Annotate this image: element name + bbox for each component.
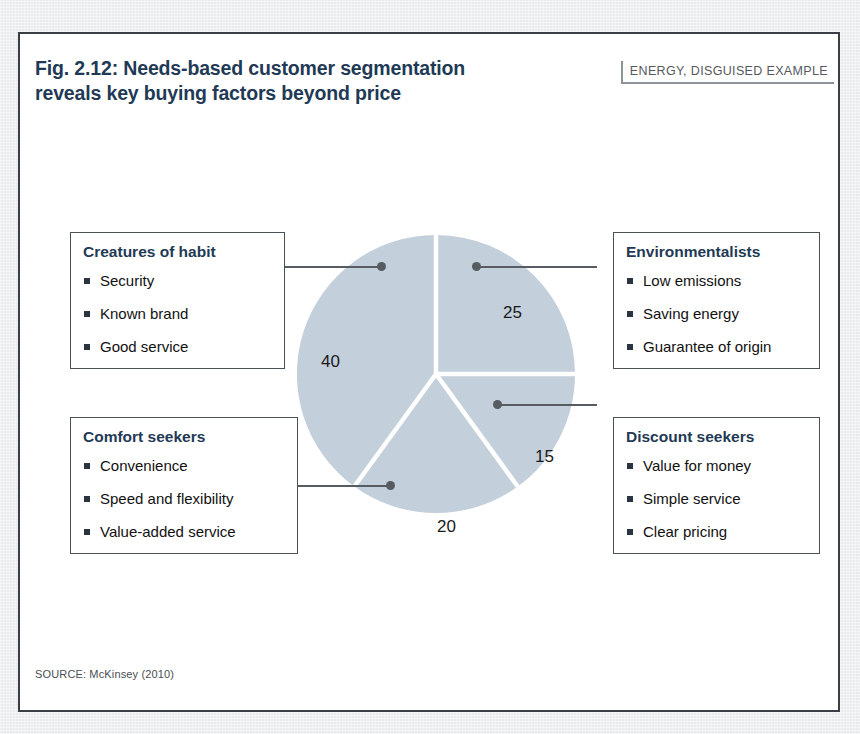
- list-item: Good service: [83, 338, 272, 356]
- segment-list-discount-seekers: Value for money Simple service Clear pri…: [626, 457, 807, 541]
- list-item: Known brand: [83, 305, 272, 323]
- segment-title-comfort-seekers: Comfort seekers: [83, 428, 285, 446]
- pie-label-creatures-of-habit: 40: [321, 352, 340, 372]
- segment-box-comfort-seekers[interactable]: Comfort seekers Convenience Speed and fl…: [70, 417, 298, 554]
- list-item: Simple service: [626, 490, 807, 508]
- list-item: Value for money: [626, 457, 807, 475]
- segment-box-environmentalists[interactable]: Environmentalists Low emissions Saving e…: [613, 232, 820, 369]
- segment-title-creatures-of-habit: Creatures of habit: [83, 243, 272, 261]
- list-item: Security: [83, 272, 272, 290]
- segment-title-discount-seekers: Discount seekers: [626, 428, 807, 446]
- list-item-label: Known brand: [100, 305, 188, 322]
- bullet-square-icon: [84, 311, 90, 317]
- bullet-square-icon: [627, 344, 633, 350]
- list-item: Guarantee of origin: [626, 338, 807, 356]
- segment-list-environmentalists: Low emissions Saving energy Guarantee of…: [626, 272, 807, 356]
- segment-list-creatures-of-habit: Security Known brand Good service: [83, 272, 272, 356]
- list-item-label: Value for money: [643, 457, 751, 474]
- segment-list-comfort-seekers: Convenience Speed and flexibility Value-…: [83, 457, 285, 541]
- bullet-square-icon: [627, 529, 633, 535]
- pie-chart-svg: [297, 235, 577, 515]
- list-item-label: Convenience: [100, 457, 188, 474]
- list-item: Clear pricing: [626, 523, 807, 541]
- connector-dot-environmentalists: [472, 262, 481, 271]
- connector-line-discount-seekers: [498, 404, 597, 406]
- connector-dot-comfort-seekers: [386, 481, 395, 490]
- title-line-1: Fig. 2.12: Needs-based customer segmenta…: [35, 56, 595, 81]
- bullet-square-icon: [84, 496, 90, 502]
- figure-card: Fig. 2.12: Needs-based customer segmenta…: [18, 32, 840, 712]
- title-line-2: reveals key buying factors beyond price: [35, 81, 595, 106]
- list-item-label: Good service: [100, 338, 188, 355]
- pie-label-environmentalists: 25: [503, 303, 522, 323]
- list-item-label: Saving energy: [643, 305, 739, 322]
- segment-title-environmentalists: Environmentalists: [626, 243, 807, 261]
- list-item-label: Clear pricing: [643, 523, 727, 540]
- list-item-label: Simple service: [643, 490, 741, 507]
- source-tag-badge: ENERGY, DISGUISED EXAMPLE: [621, 61, 834, 84]
- list-item-label: Security: [100, 272, 154, 289]
- list-item-label: Guarantee of origin: [643, 338, 771, 355]
- list-item: Value-added service: [83, 523, 285, 541]
- pie-chart: 25 15 20 40: [297, 235, 577, 515]
- bullet-square-icon: [627, 311, 633, 317]
- bullet-square-icon: [84, 278, 90, 284]
- list-item-label: Speed and flexibility: [100, 490, 233, 507]
- figure-canvas: Fig. 2.12: Needs-based customer segmenta…: [0, 0, 860, 734]
- bullet-square-icon: [627, 496, 633, 502]
- list-item: Saving energy: [626, 305, 807, 323]
- list-item: Low emissions: [626, 272, 807, 290]
- connector-dot-discount-seekers: [493, 400, 502, 409]
- list-item: Convenience: [83, 457, 285, 475]
- list-item-label: Value-added service: [100, 523, 236, 540]
- bullet-square-icon: [627, 278, 633, 284]
- page-title: Fig. 2.12: Needs-based customer segmenta…: [35, 56, 595, 106]
- bullet-square-icon: [84, 463, 90, 469]
- bullet-square-icon: [84, 529, 90, 535]
- list-item: Speed and flexibility: [83, 490, 285, 508]
- connector-line-environmentalists: [477, 266, 597, 268]
- segment-box-creatures-of-habit[interactable]: Creatures of habit Security Known brand …: [70, 232, 285, 369]
- pie-label-discount-seekers: 15: [535, 447, 554, 467]
- source-note: SOURCE: McKinsey (2010): [35, 668, 174, 680]
- bullet-square-icon: [84, 344, 90, 350]
- pie-label-comfort-seekers: 20: [437, 517, 456, 537]
- connector-dot-creatures-of-habit: [377, 262, 386, 271]
- segment-box-discount-seekers[interactable]: Discount seekers Value for money Simple …: [613, 417, 820, 554]
- bullet-square-icon: [627, 463, 633, 469]
- list-item-label: Low emissions: [643, 272, 741, 289]
